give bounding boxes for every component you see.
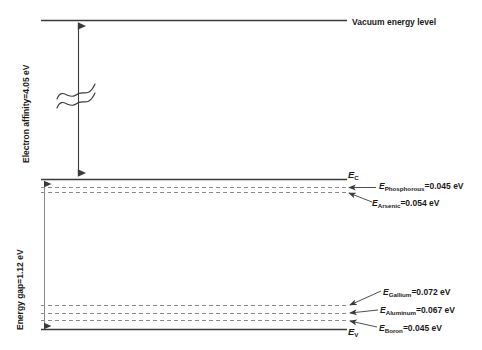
- ev-subscript: V: [354, 331, 358, 338]
- ec-subscript: C: [354, 174, 358, 181]
- aluminum-subscript: Aluminum: [386, 309, 416, 316]
- acceptor-level-aluminum-label: EAluminum=0.067 eV: [380, 306, 455, 315]
- gallium-symbol: E: [383, 287, 389, 297]
- electron-affinity-label: Electron affinity=4.05 eV: [22, 65, 31, 164]
- leader-arrow-aluminum: [350, 310, 378, 313]
- donor-level-arsenic-label: EArsenic=0.054 eV: [372, 199, 439, 208]
- phosphorous-symbol: E: [379, 181, 385, 191]
- boron-subscript: Boron: [385, 327, 403, 334]
- conduction-band-edge-label: EC: [348, 170, 359, 180]
- boron-symbol: E: [379, 323, 385, 333]
- arsenic-symbol: E: [372, 198, 378, 208]
- vacuum-level-label: Vacuum energy level: [352, 18, 436, 27]
- phosphorous-value: =0.045 eV: [425, 181, 464, 191]
- acceptor-level-gallium-label: EGallium=0.072 eV: [383, 288, 450, 297]
- acceptor-level-boron-label: EBoron=0.045 eV: [379, 324, 442, 333]
- boron-value: =0.045 eV: [403, 323, 442, 333]
- donor-level-phosphorous-label: EPhosphorous=0.045 eV: [379, 182, 464, 191]
- valence-band-edge-label: EV: [348, 327, 358, 337]
- leader-arrow-arsenic: [349, 193, 372, 202]
- arsenic-value: =0.054 eV: [400, 198, 439, 208]
- phosphorous-subscript: Phosphorous: [385, 185, 425, 192]
- energy-band-diagram: Vacuum energy level Electron affinity=4.…: [0, 0, 482, 350]
- leader-arrow-gallium: [350, 291, 381, 305]
- axis-break-squiggle-icon: [57, 84, 95, 108]
- gallium-value: =0.072 eV: [411, 287, 450, 297]
- energy-gap-label: Energy gap=1.12 eV: [16, 249, 25, 330]
- gallium-subscript: Gallium: [389, 291, 412, 298]
- aluminum-value: =0.067 eV: [416, 305, 455, 315]
- arsenic-subscript: Arsenic: [378, 202, 401, 209]
- aluminum-symbol: E: [380, 305, 386, 315]
